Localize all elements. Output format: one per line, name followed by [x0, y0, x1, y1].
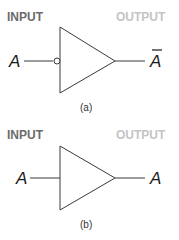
output-label: OUTPUT — [116, 128, 166, 142]
inverter-triangle-icon — [60, 27, 115, 93]
input-label: INPUT — [7, 10, 44, 24]
logic-gates-diagram: INPUT OUTPUT A A (a) INPUT OUTPUT A A (b… — [0, 0, 179, 240]
output-variable: A — [149, 169, 161, 188]
caption: (b) — [80, 219, 92, 230]
caption: (a) — [80, 102, 92, 113]
output-variable-inverted: A — [149, 52, 161, 71]
buffer-figure: INPUT OUTPUT A A (b) — [7, 128, 166, 230]
inverter-figure: INPUT OUTPUT A A (a) — [7, 10, 166, 113]
input-label: INPUT — [7, 128, 44, 142]
output-label: OUTPUT — [116, 10, 166, 24]
input-variable: A — [8, 52, 20, 71]
buffer-triangle-icon — [60, 146, 115, 210]
inversion-bubble-icon — [54, 58, 60, 64]
input-variable: A — [15, 169, 27, 188]
